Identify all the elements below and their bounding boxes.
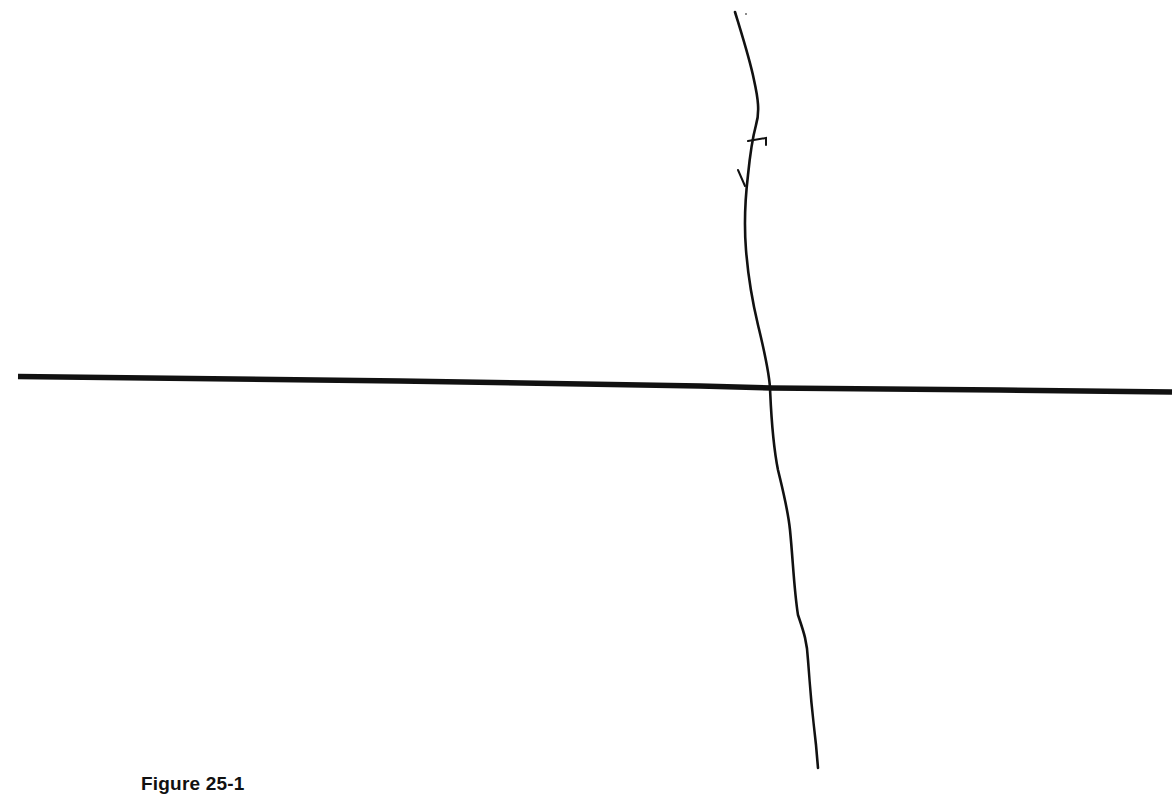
speck-mark [745,13,747,15]
figure-caption: Figure 25-1 [141,773,245,795]
small-slash-mark [738,170,745,186]
horizontal-axis-line [18,377,1172,393]
small-hook-mark [748,138,766,145]
